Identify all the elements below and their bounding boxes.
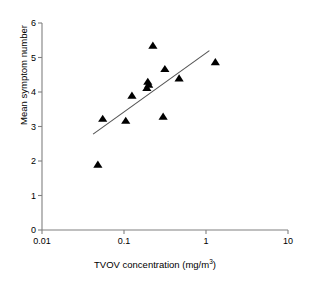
data-point-marker — [121, 117, 130, 124]
y-axis-title: Mean symptom number — [18, 25, 29, 125]
data-points — [93, 42, 220, 168]
x-tick-label: 10 — [283, 236, 293, 246]
data-point-marker — [175, 74, 184, 81]
data-point-marker — [148, 42, 157, 49]
x-axis-title-base: TVOV concentration (mg/m — [94, 259, 209, 270]
x-tick-marks — [42, 230, 288, 234]
scatter-chart: 0.010.1110 0123456 TVOV concentration (m… — [0, 0, 310, 284]
trend-line — [93, 51, 209, 134]
data-point-marker — [127, 92, 136, 99]
axes-group — [42, 23, 288, 230]
x-tick-label: 0.1 — [118, 236, 131, 246]
x-tick-label: 1 — [203, 236, 208, 246]
data-point-marker — [93, 161, 102, 168]
x-axis-title: TVOV concentration (mg/m3) — [0, 258, 310, 270]
x-tick-label: 0.01 — [33, 236, 51, 246]
data-point-marker — [98, 115, 107, 122]
data-point-marker — [160, 65, 169, 72]
data-point-marker — [211, 58, 220, 65]
y-axis-title-wrap: Mean symptom number — [13, 0, 31, 160]
x-axis-title-tail: ) — [213, 259, 216, 270]
y-tick-marks — [38, 23, 42, 230]
y-tick-label: 0 — [18, 225, 36, 235]
y-tick-label: 1 — [18, 191, 36, 201]
regression-line — [93, 51, 209, 134]
data-point-marker — [159, 113, 168, 120]
